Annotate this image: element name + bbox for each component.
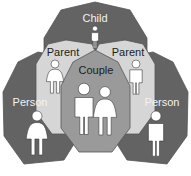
diagram-canvas: Child Parent Parent Couple Person Person [0,0,191,176]
region-label-person-right: Person [145,96,180,108]
region-label-couple: Couple [79,64,114,76]
region-label-child: Child [82,12,107,24]
region-label-person-left: Person [13,96,48,108]
region-label-parent-right: Parent [112,46,144,58]
family-set-diagram: Child Parent Parent Couple Person Person [0,0,191,176]
region-label-parent-left: Parent [47,46,79,58]
